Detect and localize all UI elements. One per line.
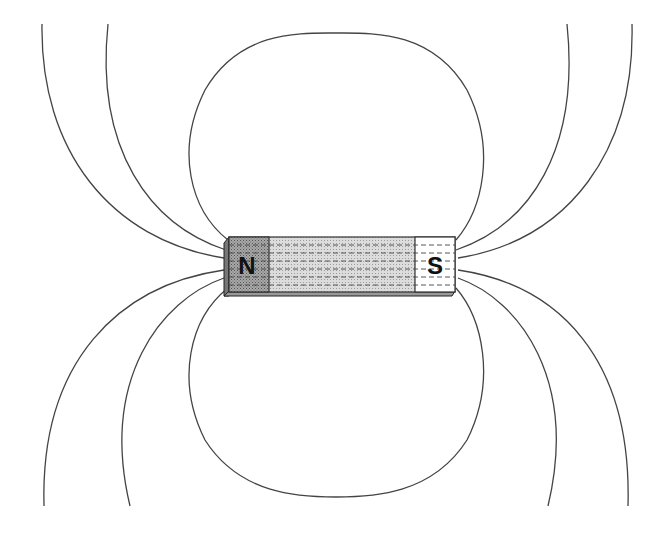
field-line-bottom-left-2 <box>44 270 224 506</box>
field-line-bottom-inner <box>189 288 484 497</box>
field-line-bottom-right-1 <box>458 278 556 506</box>
field-line-bottom-left-1 <box>122 278 224 506</box>
bar-magnet-field-diagram: N S <box>0 0 672 536</box>
field-line-top-right-1 <box>456 24 569 250</box>
field-line-top-right-2 <box>458 24 632 258</box>
field-line-top-inner <box>189 33 484 240</box>
field-line-bottom-right-2 <box>458 270 628 506</box>
north-pole-label: N <box>238 252 255 279</box>
field-line-top-left-2 <box>42 24 224 258</box>
south-pole-label: S <box>427 252 443 279</box>
bar-magnet: N S <box>224 237 455 296</box>
